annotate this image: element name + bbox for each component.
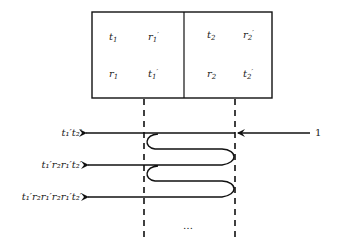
coef-r2: r2 xyxy=(207,68,217,81)
output-label-3: t₁′r₂r₁′r₂r₁′t₂′ xyxy=(22,191,83,202)
coef-t2: t2 xyxy=(207,29,216,42)
input-amplitude-label: 1 xyxy=(315,127,321,138)
interface-box xyxy=(92,12,272,98)
right-cell-coefficients: t2 r2′ r2 t2′ xyxy=(207,29,254,81)
coef-t1-prime: t1′ xyxy=(148,68,159,81)
output-label-1: t₁′t₂′ xyxy=(61,127,82,138)
coef-r1-prime: r1′ xyxy=(148,31,159,44)
coef-t1: t1 xyxy=(109,31,118,44)
beam-splitter-diagram: t1 r1′ r1 t1′ t2 r2′ r2 t2′ 1 t₁′t₂′ t₁′… xyxy=(0,0,338,248)
internal-reflection-path xyxy=(144,134,234,197)
coef-r2-prime: r2′ xyxy=(243,29,254,42)
coef-t2-prime: t2′ xyxy=(243,68,254,81)
box-outline xyxy=(92,12,272,98)
left-cell-coefficients: t1 r1′ r1 t1′ xyxy=(109,31,159,81)
output-label-2: t₁′r₂r₁′t₂′ xyxy=(42,159,83,170)
coef-r1: r1 xyxy=(109,68,118,81)
continuation-ellipsis: … xyxy=(183,220,193,231)
